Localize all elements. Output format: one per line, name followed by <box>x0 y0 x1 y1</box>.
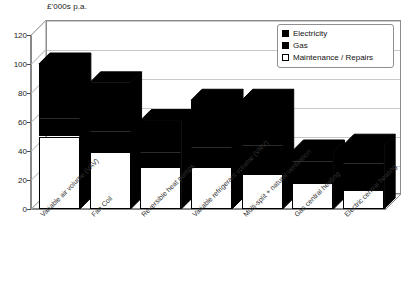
legend-swatch-electricity-icon <box>282 30 289 37</box>
legend-label-gas: Gas <box>293 42 308 50</box>
legend-label-electricity: Electricity <box>293 30 327 38</box>
legend-swatch-gas-icon <box>282 42 289 49</box>
chart-container: £'000s p.a. 120100806040200 Variable air… <box>0 0 413 293</box>
legend-item-gas: Gas <box>282 40 389 51</box>
legend-label-maintenance: Maintenance / Repairs <box>293 54 373 62</box>
legend-swatch-maintenance-icon <box>282 54 289 61</box>
bar-segment-electricity <box>343 145 384 162</box>
legend-item-maintenance: Maintenance / Repairs <box>282 52 389 63</box>
legend-item-electricity: Electricity <box>282 28 389 39</box>
legend: Electricity Gas Maintenance / Repairs <box>277 24 394 68</box>
